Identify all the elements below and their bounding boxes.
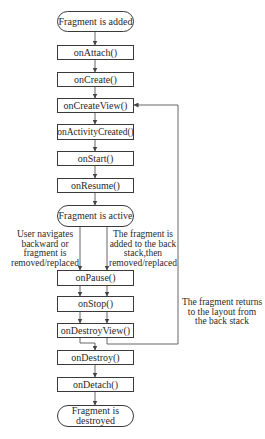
node-ondestroyview: onDestroyView()	[57, 323, 134, 338]
node-onstart: onStart()	[57, 151, 134, 166]
note-fragment-returns: The fragment returns to the layout from …	[180, 298, 264, 327]
node-oncreate: onCreate()	[57, 72, 134, 87]
node-ondetach: onDetach()	[57, 377, 134, 392]
note-added-to-back-stack: The fragment is added to the back stack,…	[108, 230, 178, 268]
node-onresume: onResume()	[57, 178, 134, 193]
node-onattach: onAttach()	[57, 45, 134, 60]
destroyed-line2: destroyed	[76, 416, 115, 426]
node-oncreateview: onCreateView()	[57, 98, 134, 113]
node-fragment-added: Fragment is added	[57, 11, 134, 32]
node-onpause: onPause()	[57, 270, 134, 286]
node-onstop: onStop()	[57, 296, 134, 312]
node-onactivitycreated: onActivityCreated()	[57, 124, 134, 140]
note-line: the back stack	[180, 317, 264, 327]
note-line: removed/replaced	[6, 259, 84, 269]
node-fragment-active: Fragment is active	[57, 205, 134, 227]
node-ondestroy: onDestroy()	[57, 350, 134, 365]
path-ondestroyview-merge	[80, 338, 95, 343]
node-fragment-destroyed: Fragment is destroyed	[57, 405, 134, 427]
note-user-navigates-backward: User navigates backward or fragment is r…	[6, 230, 84, 268]
note-line: removed/replaced	[108, 259, 178, 269]
